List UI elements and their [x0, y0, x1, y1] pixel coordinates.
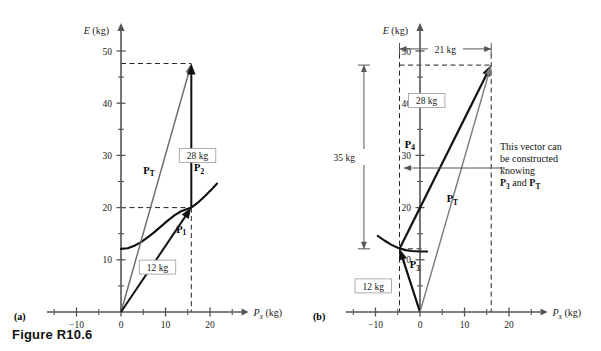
vector-construction-note: This vector canbe constructedknowingP3 a…: [404, 141, 562, 191]
x-axis-unit: (kg): [263, 307, 282, 319]
dimension-21kg-text: 21 kg: [435, 45, 457, 55]
dimension-35kg: 35 kg: [334, 65, 370, 249]
vector-P_T: [121, 64, 192, 312]
x-axis-arrowhead: [541, 309, 548, 316]
x-axis-arrowhead: [242, 309, 249, 316]
figure-r10-6: −10010201020304050E (kg)Px (kg)PTP1P228 …: [0, 0, 601, 351]
y-axis-title: E (kg): [83, 25, 109, 37]
y-tick-label-40: 40: [103, 99, 113, 109]
note-line-4: P3 and PT: [500, 177, 540, 191]
note-conjunction: and: [510, 177, 529, 188]
plot-panel-a: −10010201020304050E (kg)Px (kg)PTP1P228 …: [14, 23, 282, 330]
label-12kg-text: 12 kg: [363, 282, 385, 292]
vector-P_2: [187, 64, 195, 208]
vector-label-sub-P_T: T: [150, 169, 155, 178]
label-28kg: 28 kg: [179, 148, 216, 162]
note-line-2: be constructed: [500, 153, 558, 164]
label-28kg-text: 28 kg: [416, 96, 438, 106]
dimension-35kg-arrow-top: [361, 65, 367, 72]
y-tick-label-10: 10: [103, 255, 113, 265]
x-tick-label-10: 10: [460, 320, 470, 330]
vector-label-sub-P_3: 3: [416, 264, 420, 273]
plot-panel-b: −10010201020304050E (kg)Px (kg)P3P4PT28 …: [313, 23, 581, 330]
x-tick-label-0: 0: [119, 320, 124, 330]
y-axis-arrowhead: [117, 23, 124, 31]
x-tick-label-0: 0: [418, 320, 423, 330]
vector-label-sub-P_T: T: [453, 198, 458, 207]
x-axis-unit: (kg): [562, 307, 581, 319]
x-tick-label--10: −10: [368, 320, 383, 330]
note-line-1: This vector can: [500, 141, 562, 152]
vector-label-P_2: P2: [194, 162, 204, 176]
figure-caption: Figure R10.6: [12, 327, 92, 342]
vector-label-sub-P_2: 2: [200, 167, 204, 176]
label-12kg-text: 12 kg: [147, 263, 169, 273]
dimension-21kg-arrow-right: [484, 46, 491, 52]
panel-letter-a: (a): [14, 311, 26, 323]
label-12kg: 12 kg: [139, 260, 176, 274]
vector-label-P_T: PT: [447, 193, 458, 207]
vector-shaft-P_T: [420, 72, 489, 312]
y-axis-unit: (kg): [389, 25, 408, 37]
y-tick-label-30: 30: [103, 151, 113, 161]
y-tick-label-30: 30: [402, 151, 412, 161]
x-axis-title: Px (kg): [552, 307, 581, 321]
x-axis-title: Px (kg): [253, 307, 282, 321]
panel-letter-b: (b): [313, 311, 325, 323]
y-axis-title: E (kg): [382, 25, 408, 37]
dimension-21kg: 21 kg: [400, 43, 492, 55]
vector-shaft-P_T: [121, 71, 189, 312]
vector-label-P_1: P1: [176, 224, 186, 238]
note-leader-arrowhead: [404, 165, 411, 171]
label-28kg-text: 28 kg: [187, 151, 209, 161]
y-tick-label-50: 50: [103, 47, 113, 57]
dimension-35kg-text: 35 kg: [334, 153, 356, 163]
note-line-3: knowing: [500, 165, 535, 176]
x-tick-label-20: 20: [205, 320, 215, 330]
note-sub-t: T: [535, 182, 540, 191]
vector-label-P_T: PT: [143, 165, 154, 179]
label-12kg: 12 kg: [355, 279, 392, 293]
x-tick-label-20: 20: [504, 320, 514, 330]
vector-label-sub-P_4: 4: [411, 143, 415, 152]
y-tick-label-20: 20: [103, 203, 113, 213]
figure-canvas: −10010201020304050E (kg)Px (kg)PTP1P228 …: [0, 0, 601, 351]
dimension-35kg-arrow-bottom: [361, 242, 367, 249]
vector-P_4: [400, 65, 492, 249]
y-axis-unit: (kg): [90, 25, 109, 37]
vector-label-P_3: P3: [410, 259, 420, 273]
label-28kg: 28 kg: [408, 94, 445, 108]
vector-label-sub-P_1: 1: [183, 228, 187, 237]
y-tick-label-20: 20: [402, 203, 412, 213]
x-tick-label-10: 10: [161, 320, 171, 330]
y-axis-arrowhead: [416, 23, 423, 31]
